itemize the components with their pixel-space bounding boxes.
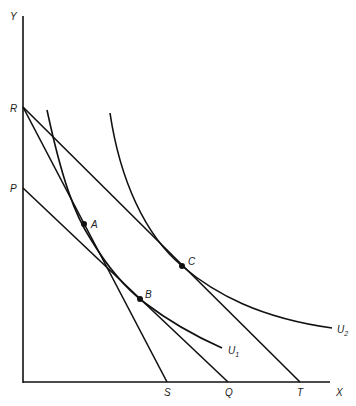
point-c	[179, 263, 185, 269]
y-axis-label: Y	[10, 11, 18, 22]
label-r: R	[10, 103, 17, 114]
point-b	[137, 296, 143, 302]
indifference-curve-u2	[110, 113, 332, 328]
label-u2: U2	[337, 324, 348, 337]
label-t: T	[297, 387, 304, 398]
label-s: S	[164, 387, 171, 398]
x-axis-label: X	[335, 387, 343, 398]
indifference-curve-diagram: Y X R P S Q T A B C U1 U2	[0, 0, 356, 406]
label-a: A	[90, 219, 98, 230]
indifference-curve-u1	[47, 110, 222, 348]
point-a	[81, 221, 87, 227]
budget-line-rs	[23, 107, 167, 382]
label-c: C	[188, 256, 196, 267]
label-b: B	[145, 289, 152, 300]
diagram-canvas: Y X R P S Q T A B C U1 U2	[0, 0, 356, 406]
label-p: P	[10, 183, 17, 194]
label-u1: U1	[228, 345, 239, 358]
label-q: Q	[225, 387, 233, 398]
